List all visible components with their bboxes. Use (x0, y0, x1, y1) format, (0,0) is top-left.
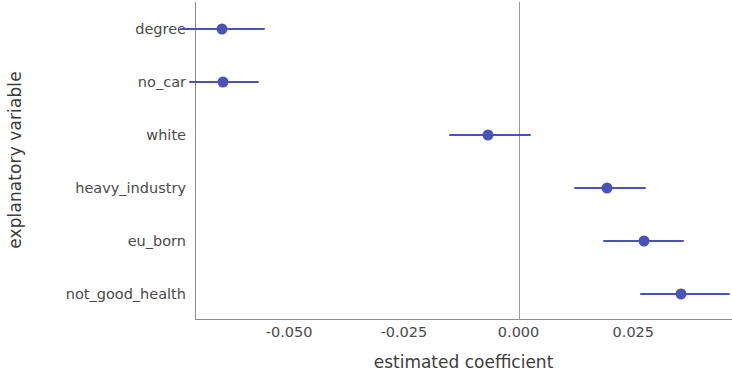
y-tick-label-eu_born: eu_born (35, 233, 195, 249)
y-axis-tick-labels: degreeno_carwhiteheavy_industryeu_bornno… (28, 0, 195, 320)
x-tick-label-2: 0.000 (498, 324, 540, 340)
y-tick-label-not_good_health: not_good_health (35, 286, 195, 302)
y-tick-label-white: white (35, 127, 195, 143)
estimate-marker (601, 182, 612, 193)
y-tick-label-no_car: no_car (35, 74, 195, 90)
estimate-marker (638, 235, 649, 246)
estimate-marker (675, 288, 686, 299)
plot-area (195, 2, 732, 320)
y-tick-label-degree: degree (35, 21, 195, 37)
x-tick-label-3: 0.025 (613, 324, 655, 340)
estimate-marker (217, 76, 228, 87)
x-axis-title: estimated coefficient (195, 352, 732, 372)
y-axis-title-text: explanatory variable (5, 71, 25, 248)
axis-spine-bottom (195, 319, 732, 320)
coefficient-plot-figure: explanatory variable degreeno_carwhitehe… (0, 0, 732, 383)
estimate-marker (216, 23, 227, 34)
zero-reference-line (519, 2, 520, 320)
y-tick-label-heavy_industry: heavy_industry (35, 180, 195, 196)
x-axis-tick-labels: -0.050-0.0250.0000.025 (195, 324, 732, 346)
x-tick-label-0: -0.050 (266, 324, 313, 340)
estimate-marker (483, 129, 494, 140)
axis-spine-left (195, 2, 196, 320)
x-tick-label-1: -0.025 (380, 324, 427, 340)
y-axis-title: explanatory variable (0, 0, 30, 320)
x-axis-title-text: estimated coefficient (374, 352, 554, 372)
